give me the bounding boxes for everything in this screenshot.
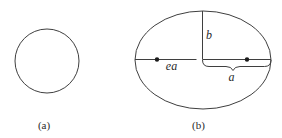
label-semi-minor-b: b — [206, 28, 212, 42]
caption-b: (b) — [192, 119, 205, 132]
panel-ellipse: b ea a (b) — [135, 11, 271, 132]
brace-semi-major — [203, 60, 272, 71]
figure-canvas: (a) b ea a (b) — [0, 0, 282, 138]
focus-dot-left — [155, 57, 159, 61]
circle-shape — [15, 29, 79, 93]
caption-a: (a) — [38, 119, 51, 132]
label-focus-distance-ea: ea — [166, 59, 177, 73]
label-semi-major-a: a — [229, 70, 235, 84]
panel-circle: (a) — [15, 29, 79, 132]
focus-dot-right — [245, 57, 249, 61]
figure: (a) b ea a (b) — [0, 0, 282, 138]
